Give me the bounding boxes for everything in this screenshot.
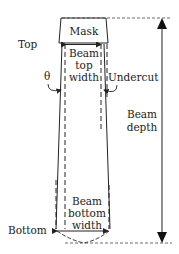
label-top: Top bbox=[18, 38, 38, 50]
label-beam-top-width-1: Beam bbox=[69, 47, 99, 59]
label-beam-bottom-width-3: width bbox=[72, 219, 102, 231]
label-beam-top-width-2: top bbox=[75, 59, 93, 71]
label-theta: θ bbox=[44, 70, 50, 82]
label-undercut: Undercut bbox=[108, 71, 159, 83]
label-beam-bottom-width-2: bottom bbox=[68, 207, 106, 219]
arrow-down-icon bbox=[157, 232, 167, 243]
label-beam-depth-1: Beam bbox=[127, 108, 157, 120]
beam-left-edge bbox=[56, 44, 62, 229]
theta-pointer bbox=[48, 84, 61, 91]
label-beam-bottom-width-1: Beam bbox=[72, 195, 102, 207]
arrow-up-icon bbox=[157, 18, 167, 29]
undercut-pointer bbox=[104, 85, 117, 92]
label-mask: Mask bbox=[70, 25, 99, 37]
bottom-curve-dashed bbox=[57, 231, 109, 243]
beam-diagram: Mask Top Bottom θ Undercut Beam top widt… bbox=[0, 0, 179, 254]
label-beam-top-width-3: width bbox=[69, 71, 99, 83]
label-beam-depth-2: depth bbox=[127, 121, 158, 133]
label-bottom: Bottom bbox=[8, 224, 47, 236]
